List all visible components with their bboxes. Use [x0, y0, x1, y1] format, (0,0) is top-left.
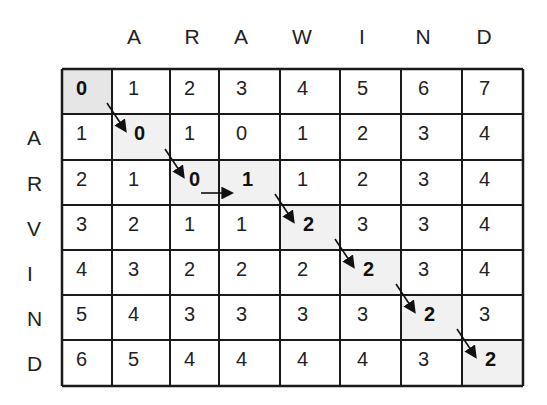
diagonal-arrow-icon [275, 194, 293, 221]
diagonal-arrow-icon [396, 284, 414, 311]
diagonal-arrow-icon [335, 239, 353, 266]
diagonal-arrow-icon [165, 149, 183, 176]
diagonal-arrow-icon [457, 329, 475, 356]
diagonal-arrow-icon [107, 103, 125, 130]
grid-and-arrows [0, 0, 547, 405]
